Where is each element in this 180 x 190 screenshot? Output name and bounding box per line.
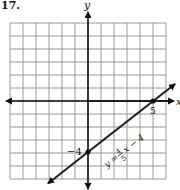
y-intercept-point bbox=[85, 149, 90, 154]
problem-number: 17. bbox=[1, 0, 20, 12]
y-axis-label: y bbox=[83, 0, 91, 12]
y-intercept-label: −4 bbox=[67, 146, 82, 157]
svg-text:x − 4: x − 4 bbox=[121, 132, 146, 155]
graph-figure: 17. y x −4 5 y = 4 5 x − bbox=[0, 0, 180, 190]
coordinate-plane: y x −4 5 y = 4 5 x − 4 bbox=[0, 0, 180, 190]
x-intercept-point bbox=[150, 98, 155, 103]
x-intercept-label: 5 bbox=[150, 106, 156, 116]
x-axis-label: x bbox=[176, 96, 180, 107]
